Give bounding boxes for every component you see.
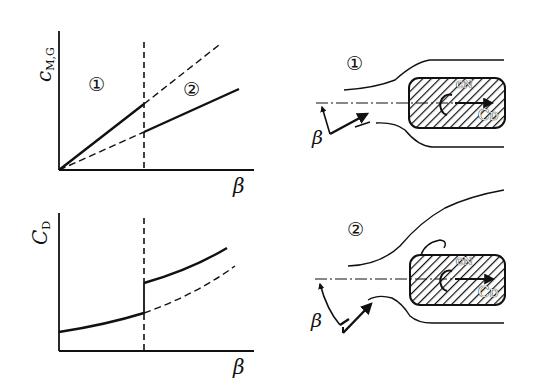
flow1-beta-label: β [312,128,323,147]
bottom-regime1-solid [59,313,144,332]
diagram-canvas [0,0,536,389]
flow-diagram-2 [315,190,505,333]
flow1-moment-label: cN [456,77,473,90]
top-y-label-sub: M,G [44,47,57,71]
separation-eddy-2 [421,240,445,255]
top-x-label: β [233,176,245,196]
top-region2-marker: ② [183,80,200,99]
bottom-regime2-solid [144,248,227,283]
flow1-drag-main: C [478,106,489,124]
flow-diagram-1 [316,60,505,147]
bottom-y-label-sub: D [40,221,53,230]
bottom-y-label-main: C [28,230,52,245]
flow-arrow-tail-1 [355,122,370,127]
top-regime1-dashed [144,45,219,104]
top-region1-marker: ① [88,75,105,94]
flow2-moment-sub: N [463,255,473,268]
bottom-x-label: β [233,357,245,377]
flow2-drag-sub: D [489,287,498,300]
flow1-moment-sub: N [463,78,473,91]
flow2-moment-label: cN [456,254,473,267]
flow1-drag-label: CD [478,108,498,123]
flow-arrow-2 [343,304,371,333]
top-y-label-main: c [32,71,56,82]
beta-arc-1 [322,107,330,134]
bottom-chart [59,213,254,351]
flow2-drag-label: CD [478,285,498,300]
top-y-label: cM,G [34,47,56,82]
flow2-marker: ② [347,220,364,239]
flow2-beta-label: β [311,311,322,330]
flow-arrow-1 [330,114,367,134]
bottom-y-label: CD [30,221,52,245]
flow1-marker: ① [346,54,363,73]
beta-arc-2 [320,284,340,325]
flow2-drag-main: C [478,283,489,301]
bottom-regime1-dashed [144,266,235,313]
top-chart [59,31,254,170]
flow1-drag-sub: D [489,110,498,123]
flow-arrow-2-short [340,319,349,325]
